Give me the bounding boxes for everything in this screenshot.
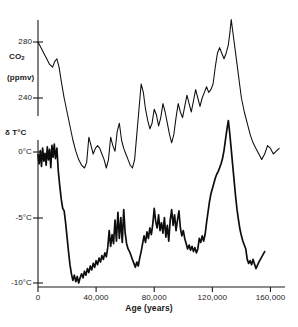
co2-tick-label-240: 240 (6, 93, 32, 102)
temp-tick-label-minus5: -5°C (2, 213, 32, 222)
temperature-axis-label: δ T°C (5, 128, 26, 137)
x-axis-title: Age (years) (0, 303, 298, 313)
temp-tick-label-minus10: -10°C (0, 278, 32, 287)
temperature-series-line (38, 121, 265, 283)
x-axis (38, 287, 285, 292)
temp-tick-label-0: 0°C (2, 147, 32, 156)
plot-canvas (0, 0, 298, 327)
co2-axis (33, 20, 43, 116)
x-axis-tick-label: 0 (8, 293, 68, 302)
co2-series-line (38, 20, 279, 168)
climate-chart-figure: 280 240 CO2 (ppmv) δ T°C 0°C -5°C -10°C … (0, 0, 298, 327)
co2-tick-label-280: 280 (6, 37, 32, 46)
x-axis-tick-label: 40,000 (66, 293, 126, 302)
x-axis-tick-label: 80,000 (124, 293, 184, 302)
co2-axis-label: CO2 (9, 52, 25, 61)
x-axis-tick-label: 120,000 (182, 293, 242, 302)
x-axis-tick-label: 160,000 (240, 293, 298, 302)
co2-axis-units: (ppmv) (7, 73, 34, 82)
x-axis-ticks (38, 287, 270, 292)
